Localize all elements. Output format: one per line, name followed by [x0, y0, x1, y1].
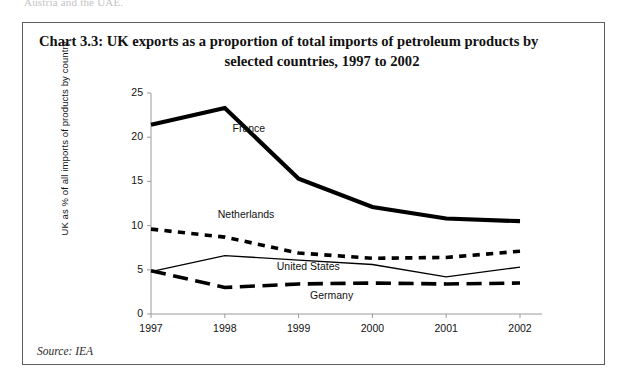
- series-line-france: [151, 108, 520, 221]
- y-tick-label: 20: [117, 130, 143, 142]
- series-label-united-states: United States: [277, 260, 340, 272]
- y-tick-label: 25: [117, 86, 143, 98]
- x-tick-label: 2002: [498, 322, 542, 334]
- series-label-netherlands: Netherlands: [218, 208, 275, 220]
- y-tick-label: 5: [117, 263, 143, 275]
- series-label-germany: Germany: [310, 289, 353, 301]
- x-tick-label: 2000: [350, 322, 394, 334]
- y-tick-label: 10: [117, 219, 143, 231]
- series-line-germany: [151, 271, 520, 288]
- plot-area: UK as % of all imports of products by co…: [23, 23, 606, 366]
- y-tick-label: 15: [117, 174, 143, 186]
- y-tick-label: 0: [117, 307, 143, 319]
- page-top-cutoff-text: Austria and the UAE.: [24, 0, 284, 8]
- x-tick-label: 1999: [277, 322, 321, 334]
- x-tick-label: 2001: [424, 322, 468, 334]
- chart-figure-box: Chart 3.3: UK exports as a proportion of…: [22, 22, 605, 365]
- chart-canvas: [23, 23, 606, 366]
- series-line-netherlands: [151, 229, 520, 258]
- x-tick-label: 1998: [203, 322, 247, 334]
- source-note: Source: IEA: [37, 345, 93, 357]
- series-label-france: France: [232, 122, 265, 134]
- x-tick-label: 1997: [129, 322, 173, 334]
